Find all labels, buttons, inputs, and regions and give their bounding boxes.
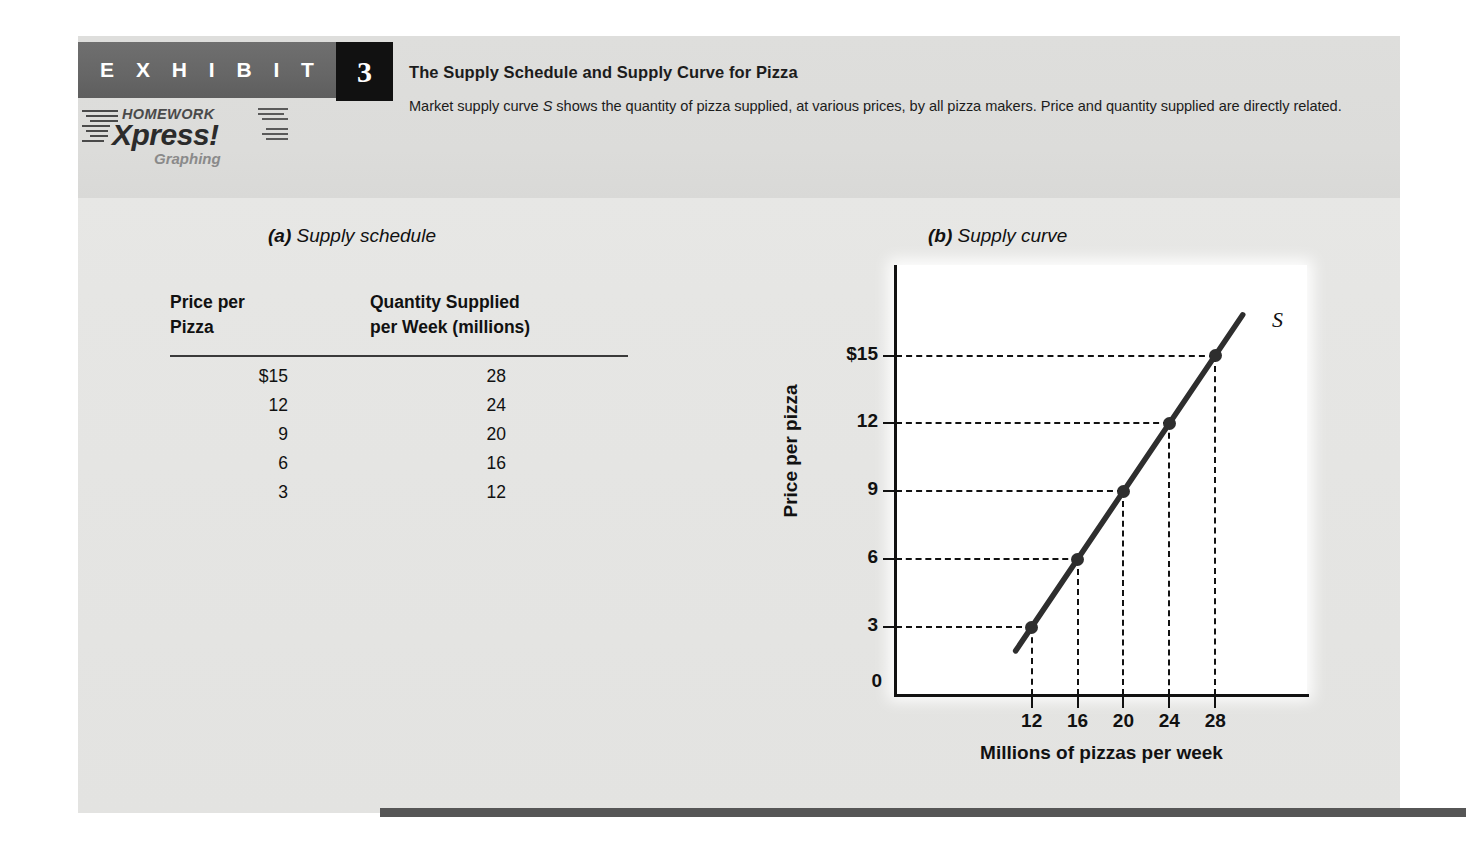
logo-speed-line — [82, 140, 104, 142]
page-right-margin — [1400, 0, 1466, 845]
logo-speed-line — [262, 133, 288, 135]
table-row: 1224 — [170, 395, 630, 424]
table-header-quantity: Quantity Supplied per Week (millions) — [370, 290, 630, 340]
logo-speed-line — [262, 118, 288, 120]
logo-speed-line — [86, 130, 108, 132]
logo-speed-line — [90, 135, 108, 137]
table-header-price: Price per Pizza — [170, 290, 350, 340]
logo-speed-line — [86, 115, 118, 117]
table-header-row: Price per Pizza Quantity Supplied per We… — [170, 290, 630, 352]
panel-b-heading: (b) Supply curve — [928, 225, 1067, 247]
logo-xpress-text: Xpress! — [112, 118, 219, 152]
caption-text-before: Market supply curve — [409, 98, 543, 114]
exhibit-page: E X H I B I T 3 HOMEWORK Xpress! Graphin… — [0, 0, 1466, 845]
data-point-marker — [1209, 349, 1222, 362]
cell-quantity: 20 — [370, 424, 506, 445]
cell-price: 6 — [170, 453, 288, 474]
exhibit-label-text: E X H I B I T — [78, 42, 336, 98]
panel-b-letter: (b) — [928, 225, 952, 246]
cell-quantity: 12 — [370, 482, 506, 503]
cell-quantity: 16 — [370, 453, 506, 474]
table-row: 312 — [170, 482, 630, 511]
table-header-price-line2: Pizza — [170, 315, 350, 340]
page-left-margin — [0, 0, 78, 845]
logo-speed-line — [258, 113, 284, 115]
panel-a-letter: (a) — [268, 225, 291, 246]
logo-graphing-text: Graphing — [154, 150, 221, 167]
table-header-quantity-line2: per Week (millions) — [370, 315, 630, 340]
supply-curve-line — [760, 250, 1380, 790]
panel-b-title: Supply curve — [952, 225, 1067, 246]
logo-speed-line — [258, 108, 288, 110]
logo-speed-line — [82, 110, 118, 112]
table-row: $1528 — [170, 366, 630, 395]
table-header-rule — [170, 355, 628, 357]
table-body: $15281224920616312 — [170, 366, 630, 511]
panel-a-title: Supply schedule — [291, 225, 436, 246]
supply-curve-chart: 0 Price per pizza Millions of pizzas per… — [760, 250, 1380, 790]
page-bottom-rule — [380, 808, 1466, 817]
data-point-marker — [1117, 485, 1130, 498]
data-point-marker — [1071, 553, 1084, 566]
logo-speed-line — [266, 128, 288, 130]
data-point-marker — [1025, 621, 1038, 634]
table-row: 616 — [170, 453, 630, 482]
cell-quantity: 28 — [370, 366, 506, 387]
caption-text-after: shows the quantity of pizza supplied, at… — [552, 98, 1341, 114]
supply-schedule-table: Price per Pizza Quantity Supplied per We… — [170, 290, 630, 352]
caption-symbol-s: S — [543, 98, 553, 114]
logo-speed-line — [266, 138, 288, 140]
cell-price: 9 — [170, 424, 288, 445]
table-row: 920 — [170, 424, 630, 453]
page-bottom-margin — [0, 813, 1466, 845]
exhibit-label-bar: E X H I B I T — [78, 42, 336, 98]
homework-xpress-logo: HOMEWORK Xpress! Graphing — [82, 106, 288, 176]
data-point-marker — [1163, 417, 1176, 430]
table-header-price-line1: Price per — [170, 290, 350, 315]
exhibit-number-badge: 3 — [336, 42, 393, 101]
cell-quantity: 24 — [370, 395, 506, 416]
cell-price: 3 — [170, 482, 288, 503]
page-top-margin — [0, 0, 1466, 36]
table-header-quantity-line1: Quantity Supplied — [370, 290, 630, 315]
logo-speed-line — [82, 125, 110, 127]
cell-price: $15 — [170, 366, 288, 387]
exhibit-caption: Market supply curve S shows the quantity… — [409, 95, 1353, 117]
panel-a-heading: (a) Supply schedule — [268, 225, 436, 247]
exhibit-title: The Supply Schedule and Supply Curve for… — [409, 63, 1349, 82]
exhibit-number-text: 3 — [357, 55, 372, 89]
cell-price: 12 — [170, 395, 288, 416]
